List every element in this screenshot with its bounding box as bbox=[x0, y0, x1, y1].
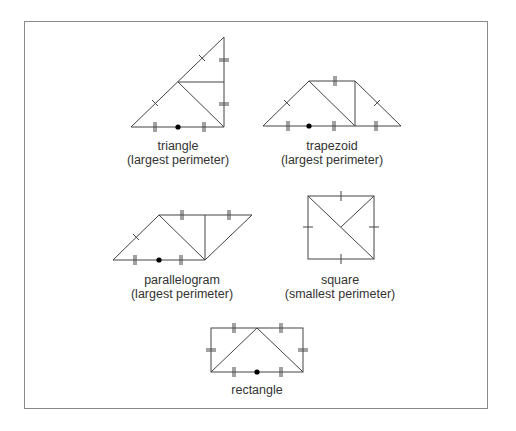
trapezoid-shape bbox=[263, 76, 401, 131]
parallelogram-label: parallelogram (largest perimeter) bbox=[131, 273, 233, 301]
square-label: square (smallest perimeter) bbox=[285, 273, 395, 301]
square-note: (smallest perimeter) bbox=[285, 287, 395, 301]
triangle-center-dot bbox=[175, 124, 180, 129]
trapezoid-name: trapezoid bbox=[281, 139, 383, 153]
parallelogram-center-dot bbox=[156, 257, 161, 262]
triangle-label: triangle (largest perimeter) bbox=[127, 139, 229, 167]
figure-canvas bbox=[0, 0, 516, 431]
parallelogram-name: parallelogram bbox=[131, 273, 233, 287]
triangle-name: triangle bbox=[127, 139, 229, 153]
trapezoid-center-dot bbox=[306, 123, 311, 128]
trapezoid-label: trapezoid (largest perimeter) bbox=[281, 139, 383, 167]
square-shape bbox=[303, 191, 379, 264]
trapezoid-note: (largest perimeter) bbox=[281, 153, 383, 167]
parallelogram-note: (largest perimeter) bbox=[131, 287, 233, 301]
rectangle-name: rectangle bbox=[231, 383, 282, 397]
triangle-note: (largest perimeter) bbox=[127, 153, 229, 167]
rectangle-center-dot bbox=[254, 369, 259, 374]
rectangle-shape bbox=[206, 323, 308, 377]
rectangle-label: rectangle bbox=[231, 383, 282, 397]
triangle-shape bbox=[131, 37, 229, 132]
parallelogram-shape bbox=[113, 210, 252, 265]
square-name: square bbox=[285, 273, 395, 287]
